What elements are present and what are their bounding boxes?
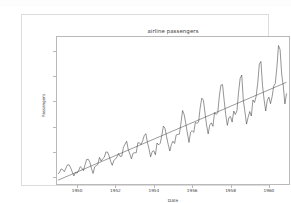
plot-canvas <box>56 36 290 185</box>
x-tick-label: 1952 <box>102 188 128 193</box>
x-tick-mark <box>115 185 116 188</box>
y-tick-mark <box>53 76 56 77</box>
x-tick-label: 1958 <box>218 188 244 193</box>
top-band <box>0 0 291 7</box>
y-tick-mark <box>53 127 56 128</box>
x-tick-mark <box>231 185 232 188</box>
passengers-series-line <box>58 46 287 176</box>
chart-title: airline passengers <box>56 28 290 35</box>
x-tick-mark <box>154 185 155 188</box>
figure-container: airline passengers 100200300400500600 19… <box>21 14 269 186</box>
trend-line-group <box>58 82 287 180</box>
x-tick-mark <box>269 185 270 188</box>
x-tick-label: 1960 <box>256 188 282 193</box>
y-tick-mark <box>53 177 56 178</box>
x-tick-label: 1954 <box>141 188 167 193</box>
screenshot-root: airline passengers 100200300400500600 19… <box>0 0 291 203</box>
x-axis-label: Date <box>56 198 290 203</box>
x-tick-mark <box>192 185 193 188</box>
trend-line <box>58 82 287 180</box>
y-tick-mark <box>53 51 56 52</box>
y-axis-label: Passengers <box>41 76 46 136</box>
x-tick-label: 1950 <box>64 188 90 193</box>
y-tick-mark <box>53 152 56 153</box>
x-tick-mark <box>77 185 78 188</box>
series-line-group <box>58 46 287 176</box>
x-tick-label: 1956 <box>179 188 205 193</box>
y-tick-mark <box>53 101 56 102</box>
